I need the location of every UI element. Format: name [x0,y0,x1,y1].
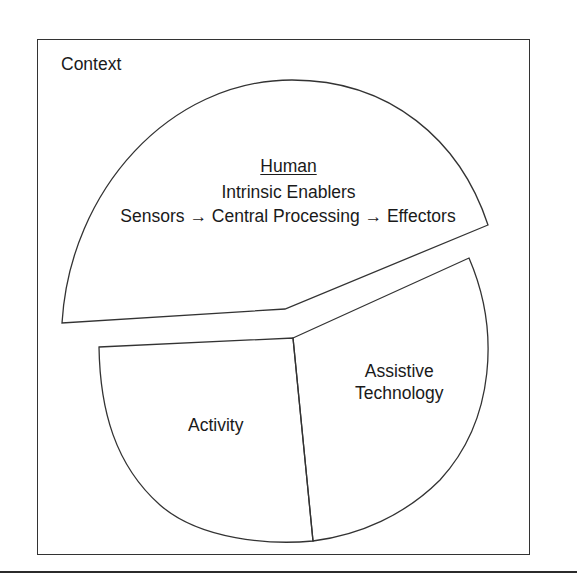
intrinsic-enablers-label: Intrinsic Enablers [0,182,577,202]
context-label: Context [61,54,121,74]
activity-label: Activity [188,415,243,435]
activity-segment [99,338,313,542]
assistive-technology-line2: Technology [355,382,444,404]
human-title: Human [0,156,577,176]
assistive-technology-line1: Assistive [355,360,444,382]
effectors-label: Effectors [387,206,456,226]
assistive-technology-label: Assistive Technology [355,360,444,404]
bottom-rule [0,571,577,573]
pie-segments [0,0,577,583]
human-title-text: Human [260,156,316,176]
arrow-right-icon: → [189,206,207,226]
arrow-right-icon: → [365,206,383,226]
sensors-label: Sensors [120,206,184,226]
enabler-chain: Sensors → Central Processing → Effectors [28,206,548,226]
central-processing-label: Central Processing [212,206,360,226]
